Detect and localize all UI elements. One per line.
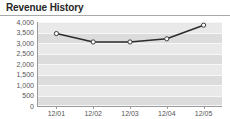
data-point-marker[interactable] (202, 23, 206, 27)
page-title: Revenue History (6, 2, 83, 13)
y-axis-tick-label: 0 (30, 103, 34, 110)
y-axis-tick-label: 2,000 (16, 61, 34, 68)
chart-container: 4,0003,5003,0002,5002,0001,5001,0005000 … (0, 17, 230, 119)
x-axis-tick (204, 106, 205, 109)
y-axis-tick-label: 3,000 (16, 40, 34, 47)
x-axis-tick (56, 106, 57, 109)
y-axis-tick-label: 4,000 (16, 19, 34, 26)
revenue-history-widget: Revenue History 4,0003,5003,0002,5002,00… (0, 0, 230, 119)
data-point-marker[interactable] (165, 37, 169, 41)
data-point-marker[interactable] (91, 40, 95, 44)
y-axis-tick-label: 1,000 (16, 82, 34, 89)
y-axis-tick-label: 500 (22, 92, 34, 99)
y-axis-tick-label: 2,500 (16, 50, 34, 57)
header-divider (0, 15, 230, 16)
x-axis-tick-label: 12/05 (195, 110, 213, 117)
y-axis-tick-label: 1,500 (16, 71, 34, 78)
x-axis-tick-label: 12/03 (121, 110, 139, 117)
data-point-marker[interactable] (54, 31, 58, 35)
x-axis-tick (93, 106, 94, 109)
y-axis-tick-label: 3,500 (16, 29, 34, 36)
x-axis-tick (167, 106, 168, 109)
x-axis-tick-label: 12/02 (84, 110, 102, 117)
widget-header: Revenue History (0, 0, 230, 17)
x-axis-tick (130, 106, 131, 109)
x-axis-tick-label: 12/04 (158, 110, 176, 117)
x-axis-tick-label: 12/01 (48, 110, 66, 117)
data-point-marker[interactable] (128, 40, 132, 44)
y-axis-line (37, 22, 38, 107)
line-series-svg (38, 22, 222, 106)
plot-area (38, 22, 222, 106)
